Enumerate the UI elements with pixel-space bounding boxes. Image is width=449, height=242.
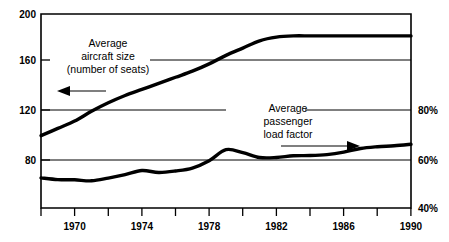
- annotation-aircraft-size-line3: (number of seats): [67, 63, 149, 75]
- left-tick-label-80: 80: [25, 155, 37, 166]
- left-tick-label-120: 120: [19, 105, 36, 116]
- line-chart: 200 160 120 80 80% 60% 40%: [0, 0, 449, 242]
- right-tick-label-40pct: 40%: [418, 203, 438, 214]
- annotation-load-factor-line1: Average: [269, 102, 308, 114]
- x-tick-label-1982: 1982: [265, 221, 288, 232]
- annotation-aircraft-size-line1: Average: [89, 37, 128, 49]
- annotation-load-factor-line2: passenger: [263, 115, 313, 127]
- x-tick-label-1990: 1990: [400, 221, 423, 232]
- x-tick-label-1986: 1986: [332, 221, 355, 232]
- right-tick-label-80pct: 80%: [418, 105, 438, 116]
- x-tick-label-1970: 1970: [63, 221, 86, 232]
- right-tick-label-60pct: 60%: [418, 155, 438, 166]
- left-tick-label-200: 200: [19, 9, 36, 20]
- left-tick-label-160: 160: [19, 55, 36, 66]
- annotation-load-factor-line3: load factor: [263, 128, 313, 140]
- chart-container: 200 160 120 80 80% 60% 40%: [0, 0, 449, 242]
- annotation-aircraft-size-line2: aircraft size: [81, 50, 135, 62]
- x-tick-label-1974: 1974: [131, 221, 154, 232]
- x-tick-label-1978: 1978: [198, 221, 221, 232]
